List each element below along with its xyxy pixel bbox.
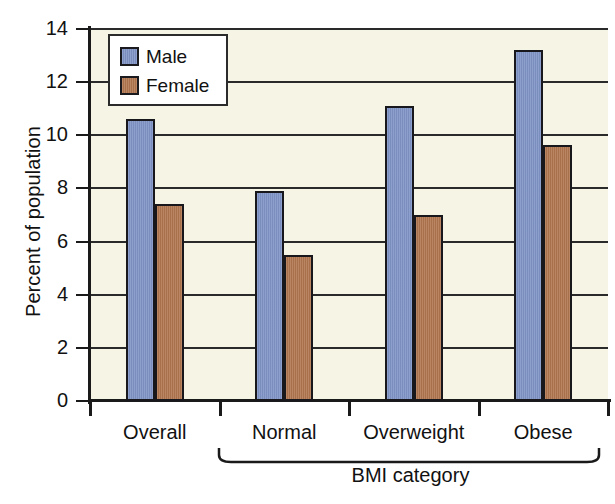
legend-swatch-female-icon [120, 76, 139, 95]
bar-obese-male [514, 50, 543, 401]
y-tick-label: 10 [0, 123, 68, 146]
y-tick-label: 2 [0, 336, 68, 359]
y-axis-line [88, 26, 91, 404]
legend: Male Female [108, 34, 228, 106]
y-tick-label: 0 [0, 389, 68, 412]
bar-normal-female [284, 255, 313, 401]
legend-item-female[interactable]: Female [120, 71, 226, 100]
y-tick-label: 12 [0, 70, 68, 93]
bar-obese-female [543, 145, 572, 401]
legend-item-male[interactable]: Male [120, 42, 226, 71]
bar-overweight-male [385, 106, 414, 401]
x-tick-label-obese: Obese [514, 421, 573, 444]
legend-label-female: Female [146, 76, 209, 95]
legend-label-male: Male [146, 47, 187, 66]
x-tick-label-overall: Overall [123, 421, 186, 444]
y-tick-label: 6 [0, 230, 68, 253]
y-tick-label: 14 [0, 17, 68, 40]
y-tick-label: 8 [0, 176, 68, 199]
legend-swatch-male-icon [120, 47, 139, 66]
x-tick [89, 401, 92, 416]
x-tick [607, 401, 610, 416]
y-tick-label: 4 [0, 283, 68, 306]
bar-overall-male [126, 119, 155, 401]
x-tick-label-overweight: Overweight [363, 421, 464, 444]
x-tick [478, 401, 481, 416]
bar-overall-female [155, 204, 184, 401]
x-tick-label-normal: Normal [252, 421, 316, 444]
x-axis-title: BMI category [352, 464, 470, 487]
x-axis-title-wrap: BMI category [0, 464, 615, 487]
bar-chart: Percent of population 02468101214 Overal… [0, 0, 615, 504]
bar-overweight-female [414, 215, 443, 401]
x-tick [219, 401, 222, 416]
gridline [90, 28, 608, 30]
bar-normal-male [255, 191, 284, 401]
x-tick [348, 401, 351, 416]
bmi-category-brace [217, 448, 601, 464]
